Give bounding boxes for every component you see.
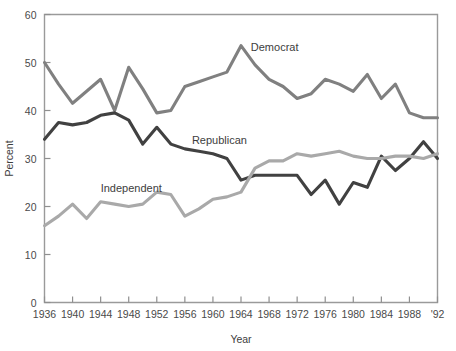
y-tick-label: 40 [25, 105, 37, 117]
y-tick-label: 0 [31, 297, 37, 309]
x-axis-tick-labels: 1936194019441948195219561960196419681972… [33, 308, 445, 320]
y-tick-label: 50 [25, 57, 37, 69]
y-tick-label: 10 [25, 249, 37, 261]
y-tick-label: 20 [25, 201, 37, 213]
series-annotation-labels: DemocratRepublicanIndependent [101, 41, 299, 195]
x-tick-label: 1948 [117, 308, 141, 320]
y-tick-label: 30 [25, 153, 37, 165]
y-tick-label: 60 [25, 9, 37, 21]
series-label-republican: Republican [192, 134, 247, 146]
x-tick-label: 1988 [398, 308, 422, 320]
y-axis-title: Percent [3, 140, 15, 176]
x-tick-label: '92 [431, 308, 445, 320]
x-tick-label: 1960 [201, 308, 225, 320]
x-axis-ticks [45, 297, 438, 303]
series-label-democrat: Democrat [251, 41, 299, 53]
x-tick-label: 1984 [370, 308, 394, 320]
x-tick-label: 1968 [257, 308, 281, 320]
x-tick-label: 1976 [314, 308, 338, 320]
x-tick-label: 1952 [145, 308, 169, 320]
chart-canvas: 1936194019441948195219561960196419681972… [0, 0, 456, 351]
series-label-independent: Independent [101, 182, 162, 194]
x-tick-label: 1980 [342, 308, 366, 320]
x-tick-label: 1956 [173, 308, 197, 320]
x-axis-title: Year [230, 333, 252, 345]
x-tick-label: 1944 [89, 308, 113, 320]
x-tick-label: 1964 [229, 308, 253, 320]
x-tick-label: 1972 [285, 308, 309, 320]
x-tick-label: 1936 [33, 308, 57, 320]
line-chart-party-identification: 1936194019441948195219561960196419681972… [0, 0, 456, 351]
y-axis-tick-labels: 0102030405060 [25, 9, 37, 309]
x-tick-label: 1940 [61, 308, 85, 320]
y-axis-ticks [45, 15, 51, 303]
series-line-democrat [45, 46, 438, 118]
